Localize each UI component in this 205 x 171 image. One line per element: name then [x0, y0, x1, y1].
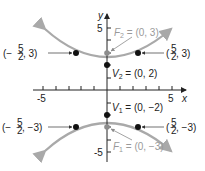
- focus-f2-point: [104, 50, 110, 56]
- x-tick-max-label: 5: [168, 93, 174, 104]
- vertex-v2-label: V2 = (0, 2): [112, 68, 157, 80]
- vertex-v1-label: V1 = (0, −2): [112, 102, 163, 114]
- svg-text:(: (: [166, 122, 170, 133]
- svg-text:(: (: [166, 48, 170, 59]
- leader-f1: [111, 129, 132, 140]
- svg-text:(−: (−: [3, 48, 12, 59]
- leader-f2: [111, 37, 132, 51]
- vertex-v2-point: [104, 62, 110, 68]
- svg-text:(−: (−: [2, 122, 11, 133]
- point-right-top: [135, 50, 141, 56]
- y-tick-min-label: -5: [94, 147, 103, 158]
- x-axis-label: x: [181, 93, 188, 104]
- y-axis: y 5 -5: [94, 10, 111, 162]
- svg-text:, −3): , −3): [176, 122, 196, 133]
- y-tick-max-label: 5: [97, 23, 103, 34]
- x-tick-min-label: -5: [37, 93, 46, 104]
- point-left-top: [73, 50, 79, 56]
- focus-f1-label: F1 = (0, −3): [113, 141, 164, 153]
- focus-f1-point: [104, 124, 110, 130]
- vertex-v1-point: [104, 112, 110, 118]
- label-left-top: (− 5 2 , 3): [3, 43, 37, 62]
- svg-text:, −3): , −3): [22, 122, 42, 133]
- point-left-bottom: [73, 124, 79, 130]
- x-axis: -5 5 x: [33, 86, 188, 104]
- label-right-top: ( 5 2 , 3): [166, 43, 190, 62]
- label-left-bottom: (− 5 2 , −3): [2, 117, 42, 136]
- y-axis-label: y: [97, 10, 104, 21]
- focus-f2-label: F2 = (0, 3): [114, 27, 159, 39]
- hyperbola-diagram: -5 5 x y 5 -5 F2 = (0, 3) V2 = (: [0, 0, 205, 171]
- svg-text:, 3): , 3): [23, 48, 37, 59]
- label-right-bottom: ( 5 2 , −3): [166, 117, 196, 136]
- point-right-bottom: [135, 124, 141, 130]
- svg-text:, 3): , 3): [176, 48, 190, 59]
